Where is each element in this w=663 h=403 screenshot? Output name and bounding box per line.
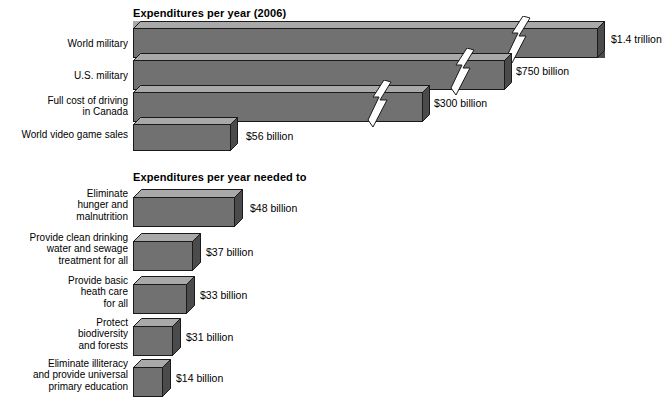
category-label-text: U.S. military xyxy=(74,70,128,81)
axis-break-mark xyxy=(448,48,478,95)
category-label-text: Provide clean drinking water and sewage … xyxy=(30,232,128,266)
section-heading-spending: Expenditures per year (2006) xyxy=(133,7,286,19)
category-label-text: Provide basic heath care for all xyxy=(68,275,128,309)
value-label-eliminate-illiteracy: $14 billion xyxy=(176,372,223,384)
bar-outline xyxy=(133,189,243,227)
bar-protect-biodiversity xyxy=(133,318,181,356)
value-label-clean-water: $37 billion xyxy=(206,246,253,258)
value-label-video-game-sales: $56 billion xyxy=(246,130,293,142)
category-label-text: Full cost of driving in Canada xyxy=(47,95,128,118)
value-label-world-military: $1.4 trillion xyxy=(611,33,662,45)
category-label-text: World video game sales xyxy=(21,129,128,140)
bar-basic-health-care xyxy=(133,276,195,314)
section-heading-needed: Expenditures per year needed to xyxy=(133,171,307,183)
bar-clean-water xyxy=(133,233,201,271)
bar-eliminate-hunger xyxy=(133,189,243,227)
bar-outline xyxy=(133,359,171,397)
value-label-eliminate-hunger: $48 billion xyxy=(250,202,297,214)
category-label-text: Eliminate hunger and malnutrition xyxy=(76,188,128,222)
category-label-text: World military xyxy=(68,38,128,49)
expenditures-bar-chart: Expenditures per year (2006) World milit… xyxy=(0,0,663,403)
bar-outline xyxy=(133,233,201,271)
value-label-driving-canada: $300 billion xyxy=(434,97,487,109)
bar-outline xyxy=(133,276,195,314)
bar-eliminate-illiteracy xyxy=(133,359,171,397)
axis-break-mark xyxy=(365,80,395,127)
category-label-text: Protect biodiversity and forests xyxy=(78,317,128,351)
value-label-us-military: $750 billion xyxy=(516,65,569,77)
value-label-basic-health-care: $33 billion xyxy=(200,289,247,301)
category-label-text: Eliminate illiteracy and provide univers… xyxy=(33,358,128,392)
value-label-protect-biodiversity: $31 billion xyxy=(186,331,233,343)
bar-video-game-sales xyxy=(133,117,238,151)
bar-side-face xyxy=(598,21,605,58)
bar-outline xyxy=(133,117,238,151)
bar-outline xyxy=(133,318,181,356)
